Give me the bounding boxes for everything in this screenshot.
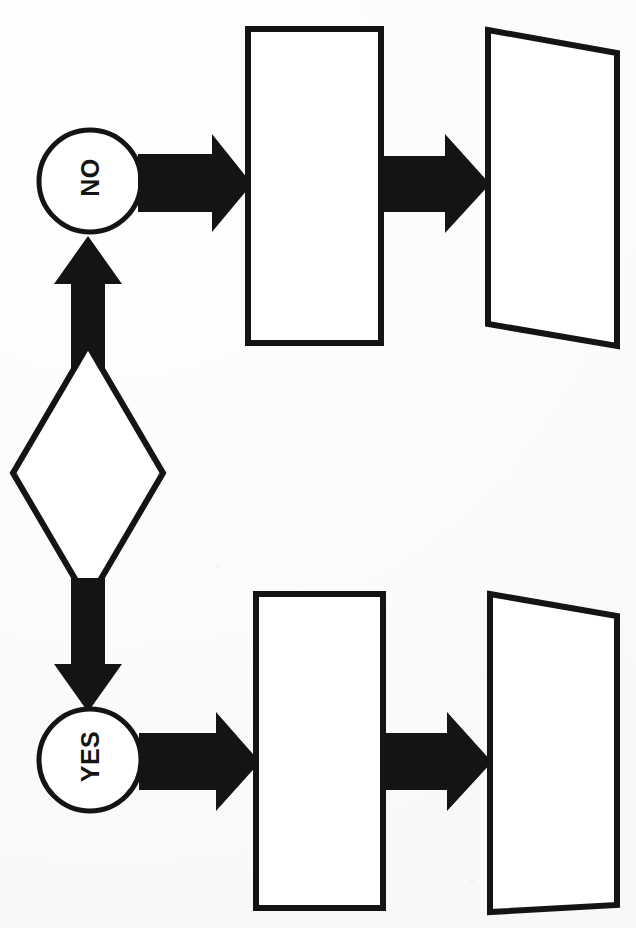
scan-artifact [300, 585, 303, 587]
node-decision[interactable] [13, 345, 163, 601]
node-output-bottom[interactable] [490, 594, 617, 912]
node-output-top[interactable] [488, 30, 617, 346]
connector-process-top-to-output-top[interactable] [381, 134, 490, 233]
connector-yes-to-process-bottom[interactable] [139, 712, 260, 811]
node-process-top[interactable] [248, 29, 381, 343]
scan-artifact [215, 565, 220, 568]
scanned-page: NO YES [0, 0, 636, 928]
connector-decision-to-yes[interactable] [54, 578, 122, 712]
connector-process-bottom-to-output-bottom[interactable] [383, 712, 492, 811]
scan-artifact [470, 880, 474, 883]
node-label-branch-yes: YES [76, 723, 105, 791]
node-process-bottom[interactable] [256, 594, 383, 908]
node-label-branch-no: NO [76, 146, 105, 210]
connector-no-to-process-top[interactable] [138, 134, 252, 232]
